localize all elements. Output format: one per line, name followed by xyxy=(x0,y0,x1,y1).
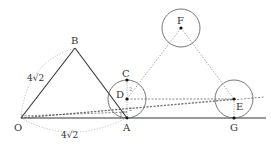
label-side-ob: 4√2 xyxy=(27,73,44,83)
segment-ba xyxy=(75,48,127,118)
label-f: F xyxy=(177,15,184,26)
point-f xyxy=(179,26,182,29)
dotted-d-f xyxy=(127,28,181,99)
label-e: E xyxy=(236,101,243,112)
dashed-o-horizontal xyxy=(21,112,127,116)
geometry-diagram: O B A C D F E G 4√2 4√2 2 2 xyxy=(0,0,271,148)
label-o: O xyxy=(14,122,22,133)
dotted-f-e xyxy=(181,28,234,99)
point-a xyxy=(126,117,129,120)
segment-ob xyxy=(21,48,75,118)
point-g xyxy=(232,116,235,119)
label-g: G xyxy=(230,122,238,133)
label-side-oa: 4√2 xyxy=(61,130,78,140)
label-a: A xyxy=(122,122,131,133)
label-seg-da: 2 xyxy=(129,106,132,112)
point-d xyxy=(125,97,128,100)
label-b: B xyxy=(71,35,78,46)
label-seg-cd: 2 xyxy=(129,86,132,92)
label-d: D xyxy=(116,89,124,100)
label-c: C xyxy=(122,68,130,79)
